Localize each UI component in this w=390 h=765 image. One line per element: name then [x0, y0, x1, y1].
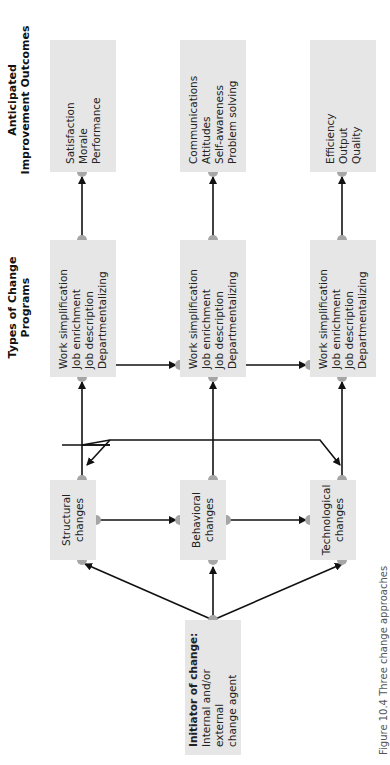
- behavioral-changes-box: Behavioral changes: [180, 480, 226, 560]
- outcome-box-satisfaction: Satisfaction Morale Performance: [50, 40, 116, 172]
- heading-programs: Types of Change Programs: [6, 240, 32, 375]
- program-box-technological: Work simplification Job enrichment Job d…: [310, 240, 376, 377]
- initiator-box: Initiator of change: Internal and/or ext…: [185, 620, 241, 755]
- outcome-box-communications: Communications Attitudes Self-awareness …: [180, 40, 246, 172]
- technological-changes-box: Technological changes: [310, 480, 356, 560]
- structural-changes-box: Structural changes: [50, 480, 96, 560]
- heading-outcomes: Anticipated Improvement Outcomes: [6, 25, 32, 175]
- program-box-behavioral: Work simplification Job enrichment Job d…: [180, 240, 246, 377]
- diagram-canvas: Types of Change Programs Anticipated Imp…: [0, 0, 390, 765]
- outcome-box-efficiency: Efficiency Output Quality: [310, 40, 376, 172]
- figure-caption: Figure 10.4 Three change approaches: [378, 566, 389, 755]
- program-box-structural: Work simplification Job enrichment Job d…: [50, 240, 116, 377]
